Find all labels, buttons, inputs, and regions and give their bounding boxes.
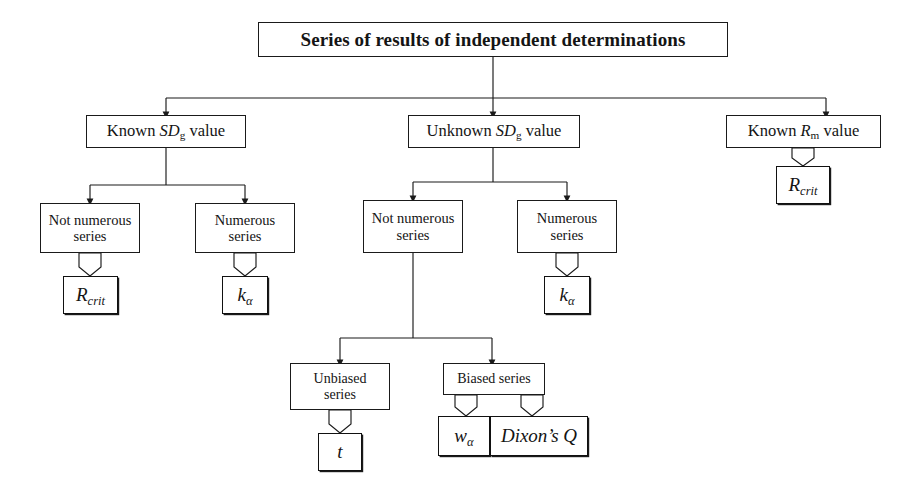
- block-arrow-left-kalpha: [234, 253, 256, 276]
- node-known-sdg-label: Known SDg value: [107, 122, 225, 140]
- terminal-k-alpha-mid-label: kα: [559, 284, 574, 305]
- node-mid-not-numerous-line1: Not numerous: [372, 210, 455, 226]
- terminal-t-label: t: [337, 441, 342, 462]
- terminal-w-alpha: wα: [438, 416, 490, 456]
- terminal-dixon-q-label: Dixon’s Q: [501, 425, 577, 446]
- node-unknown-sdg-label: Unknown SDg value: [427, 122, 562, 140]
- node-mid-not-numerous-line2: series: [396, 227, 429, 243]
- node-mid-numerous: Numerous series: [517, 200, 617, 253]
- terminal-r-crit-left: Rcrit: [63, 276, 118, 314]
- node-unknown-sdg: Unknown SDg value: [408, 115, 580, 148]
- node-left-numerous-line1: Numerous: [215, 212, 275, 228]
- terminal-k-alpha-left: kα: [222, 276, 268, 314]
- block-arrow-t: [329, 410, 351, 433]
- terminal-k-alpha-mid: kα: [544, 276, 590, 314]
- node-left-not-numerous-line1: Not numerous: [49, 212, 132, 228]
- node-left-not-numerous-line2: series: [73, 228, 106, 244]
- node-biased-series-label: Biased series: [457, 371, 530, 387]
- node-known-sdg: Known SDg value: [86, 115, 246, 148]
- node-mid-numerous-line2: series: [550, 227, 583, 243]
- node-left-not-numerous: Not numerous series: [40, 203, 140, 253]
- block-arrow-walpha: [455, 395, 477, 416]
- node-unbiased-series-line1: Unbiased: [314, 371, 367, 387]
- node-known-rm: Known Rm value: [726, 115, 881, 148]
- flowchart-canvas: Series of results of independent determi…: [0, 0, 920, 492]
- terminal-r-crit-left-label: Rcrit: [76, 284, 105, 305]
- node-unbiased-series-line2: series: [324, 387, 356, 403]
- node-biased-series: Biased series: [443, 363, 545, 395]
- terminal-r-crit-right: Rcrit: [776, 166, 830, 204]
- terminal-w-alpha-label: wα: [454, 425, 473, 446]
- block-arrow-left-rcrit: [79, 253, 101, 276]
- terminal-t: t: [318, 433, 362, 471]
- root-title-label: Series of results of independent determi…: [301, 29, 686, 50]
- block-arrow-mid-kalpha: [556, 253, 578, 276]
- node-unbiased-series: Unbiased series: [290, 363, 390, 410]
- terminal-r-crit-right-label: Rcrit: [788, 174, 817, 195]
- root-title-box: Series of results of independent determi…: [258, 22, 728, 57]
- node-mid-numerous-line1: Numerous: [537, 210, 597, 226]
- node-left-numerous: Numerous series: [195, 203, 295, 253]
- terminal-dixon-q: Dixon’s Q: [490, 416, 588, 456]
- node-left-numerous-line2: series: [228, 228, 261, 244]
- node-mid-not-numerous: Not numerous series: [363, 200, 463, 253]
- block-arrow-right-rcrit: [792, 148, 814, 166]
- terminal-k-alpha-left-label: kα: [237, 284, 252, 305]
- node-known-rm-label: Known Rm value: [748, 122, 859, 140]
- block-arrow-dixonq: [521, 395, 543, 416]
